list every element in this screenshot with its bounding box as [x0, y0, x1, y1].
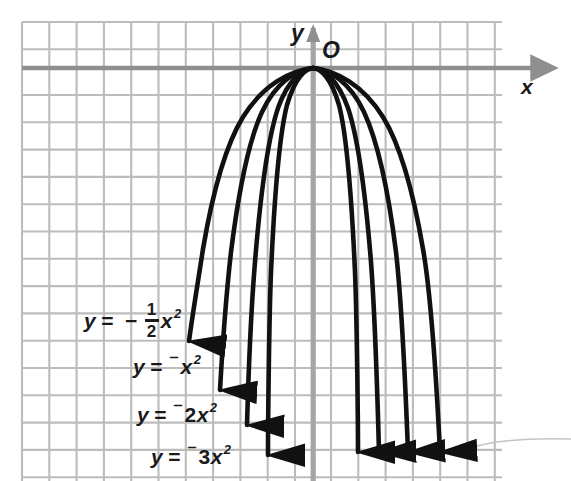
eq3-variable: x: [197, 404, 209, 425]
eq2-lhs: y: [133, 356, 145, 377]
eq4-lhs: y: [151, 446, 163, 467]
eq1-variable: x: [161, 310, 173, 331]
eq4-exponent: 2: [224, 443, 232, 456]
eq1-denominator: 2: [145, 322, 159, 340]
graph-canvas: [0, 0, 571, 481]
y-axis-label: y: [291, 22, 304, 45]
eq3-raised-minus-icon: ⁻: [173, 399, 184, 418]
eq2-exponent: 2: [194, 353, 202, 366]
eq3-exponent: 2: [210, 401, 218, 414]
eq1-lhs: y: [84, 310, 96, 331]
eq1-minus-sign: −: [125, 310, 138, 331]
eq1-numerator: 1: [145, 301, 159, 319]
eq1-exponent: 2: [174, 307, 182, 320]
eq4-equals: =: [168, 446, 181, 467]
equation-label-neg-2x-squared: y = ⁻ 2 x 2: [137, 404, 218, 425]
equation-label-neg-half-x-squared: y = − 1 2 x 2: [84, 301, 182, 340]
eq2-equals: =: [150, 356, 163, 377]
graph-axes: [22, 24, 533, 481]
eq4-variable: x: [211, 446, 223, 467]
x-axis-label: x: [521, 76, 533, 97]
eq1-fraction: 1 2: [145, 301, 159, 340]
eq2-raised-minus-icon: ⁻: [169, 351, 180, 370]
parabola-graph-figure: y O x y = − 1 2 x 2 y = ⁻ x 2 y = ⁻ 2 x …: [0, 0, 571, 481]
scan-artifact-line: [470, 439, 571, 448]
eq4-coefficient: 3: [198, 446, 210, 467]
eq3-coefficient: 2: [184, 404, 196, 425]
equation-label-neg-x-squared: y = ⁻ x 2: [133, 356, 201, 377]
eq3-equals: =: [154, 404, 167, 425]
equation-label-neg-3x-squared: y = ⁻ 3 x 2: [151, 446, 232, 467]
eq2-variable: x: [180, 356, 192, 377]
eq1-equals: =: [101, 310, 114, 331]
eq3-lhs: y: [137, 404, 149, 425]
y-axis-arrowhead: [306, 24, 320, 42]
eq4-raised-minus-icon: ⁻: [187, 441, 198, 460]
origin-label: O: [322, 39, 340, 62]
